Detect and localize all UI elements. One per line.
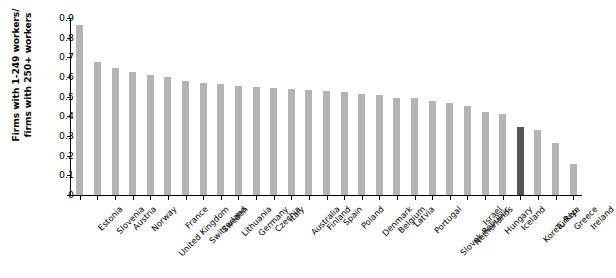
bar[interactable]	[323, 91, 330, 195]
bar[interactable]	[517, 127, 524, 195]
plot-area: 0.90.80.70.60.50.40.30.20.10	[70, 18, 582, 196]
bar[interactable]	[253, 87, 260, 195]
bar[interactable]	[552, 143, 559, 195]
bars-group	[71, 18, 582, 195]
bar[interactable]	[112, 68, 119, 195]
bar[interactable]	[464, 106, 471, 195]
bar[interactable]	[429, 101, 436, 195]
bar[interactable]	[182, 81, 189, 195]
x-axis-tick-label: Portugal	[432, 204, 463, 235]
y-axis-title-line-1: Firms with 1-249 workers/	[10, 9, 22, 142]
bar[interactable]	[217, 84, 224, 195]
y-axis-title-line-2: firms with 250+ workers	[22, 13, 34, 138]
bar[interactable]	[482, 112, 489, 195]
bar[interactable]	[305, 90, 312, 195]
x-axis-labels: EstoniaSloveniaAustriaNorwayUnited Kingd…	[70, 196, 585, 278]
bar[interactable]	[129, 72, 136, 195]
x-axis-tick-label: Poland	[359, 204, 386, 231]
bar[interactable]	[446, 103, 453, 195]
bar[interactable]	[270, 88, 277, 195]
bar[interactable]	[376, 95, 383, 195]
bar[interactable]	[76, 25, 83, 195]
bar[interactable]	[570, 164, 577, 195]
bar[interactable]	[235, 86, 242, 195]
bar[interactable]	[200, 83, 207, 195]
y-axis-title: Firms with 1-249 workers/ firms with 250…	[5, 0, 39, 173]
bar[interactable]	[164, 77, 171, 195]
bar[interactable]	[534, 130, 541, 195]
bar[interactable]	[94, 62, 101, 195]
bar[interactable]	[393, 98, 400, 195]
bar[interactable]	[358, 94, 365, 195]
bar[interactable]	[147, 75, 154, 195]
bar[interactable]	[341, 92, 348, 195]
bar[interactable]	[411, 98, 418, 195]
bar[interactable]	[288, 89, 295, 195]
bar[interactable]	[499, 114, 506, 195]
